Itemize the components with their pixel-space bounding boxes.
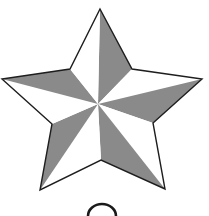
figure-canvas [0, 0, 209, 216]
star-facets [2, 9, 202, 190]
circle-partial-icon [88, 204, 116, 216]
star-icon [0, 0, 209, 216]
